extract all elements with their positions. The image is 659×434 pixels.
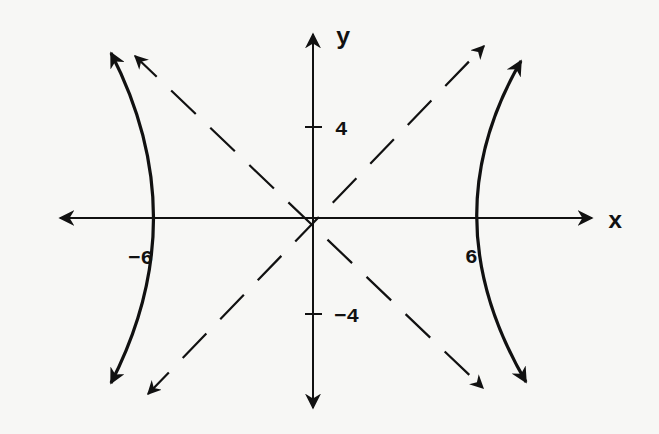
asymptotes [135,46,484,394]
tick-label-x-6: 6 [465,246,478,269]
tick-label-x-neg6: −6 [128,247,153,270]
y-axis-label: y [336,24,350,51]
hyperbola-figure: y x 4 −4 −6 6 [0,0,659,434]
tick-label-y-4: 4 [335,118,348,141]
asymptote-negative-slope [135,56,483,388]
right-branch [477,61,526,382]
x-axis-label: x [608,208,622,235]
asymptote-positive-slope [148,46,484,394]
tick-label-y-neg4: −4 [334,305,359,328]
